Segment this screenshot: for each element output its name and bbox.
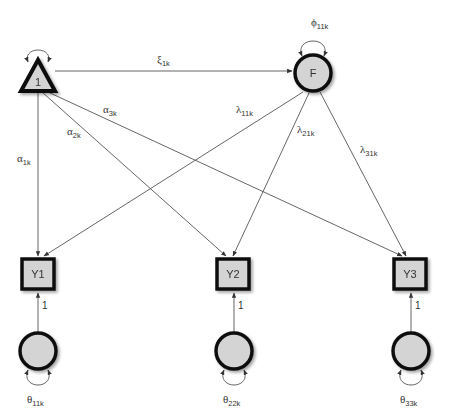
- label-alpha2: α2k: [67, 125, 81, 140]
- node-error-1: [20, 333, 56, 369]
- node-error-2: [216, 333, 252, 369]
- label-theta2: θ22k: [223, 393, 241, 408]
- path-diagram: 1 F Y1 Y2 Y3 ξ1k ϕ11k α1k α2k α3k λ11k λ…: [0, 0, 451, 417]
- loop-theta2: [223, 370, 245, 385]
- node-error-3: [393, 333, 429, 369]
- label-alpha1: α1k: [17, 152, 31, 167]
- label-lambda2: λ21k: [297, 123, 315, 138]
- edge-lambda1: [44, 92, 303, 256]
- node-y3: Y3: [394, 259, 426, 289]
- node-constant: 1: [21, 60, 55, 91]
- node-y1: Y1: [22, 259, 54, 289]
- label-lambda1: λ11k: [236, 103, 253, 118]
- label-lambda3: λ31k: [360, 143, 378, 158]
- loop-theta1: [27, 370, 49, 385]
- node-factor-f: F: [295, 55, 331, 91]
- label-theta3: θ33k: [400, 393, 418, 408]
- label-xi: ξ1k: [157, 53, 170, 68]
- label-loading-e2: 1: [238, 300, 244, 311]
- edge-alpha3: [48, 92, 402, 256]
- svg-text:Y2: Y2: [226, 268, 239, 280]
- svg-text:F: F: [310, 67, 317, 79]
- edge-alpha2: [42, 92, 226, 256]
- edge-lambda3: [320, 92, 406, 256]
- label-theta1: θ11k: [27, 393, 44, 408]
- svg-text:Y3: Y3: [403, 268, 416, 280]
- label-loading-e3: 1: [415, 300, 421, 311]
- label-loading-e1: 1: [42, 300, 48, 311]
- node-y2: Y2: [217, 259, 249, 289]
- label-phi: ϕ11k: [311, 16, 329, 31]
- label-alpha3: α3k: [103, 103, 117, 118]
- svg-text:1: 1: [35, 76, 41, 88]
- svg-text:Y1: Y1: [31, 268, 44, 280]
- edges: [27, 41, 422, 385]
- loop-theta3: [400, 370, 422, 385]
